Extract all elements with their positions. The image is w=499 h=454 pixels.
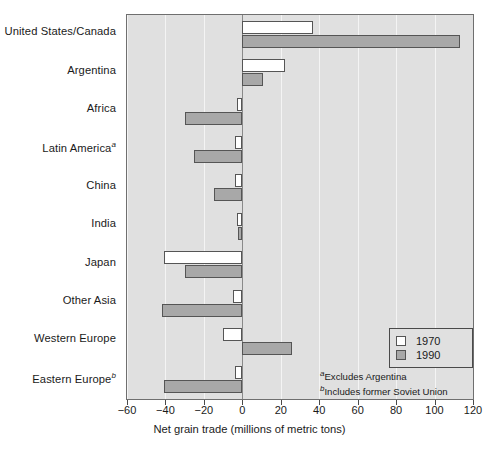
category-label-text: Japan: [85, 256, 116, 268]
x-tick-label: 60: [338, 404, 378, 416]
x-tick-label: 20: [261, 404, 301, 416]
x-tick-label: 120: [453, 404, 493, 416]
bar-1990-india: [238, 227, 242, 240]
category-label-text: Western Europe: [34, 332, 116, 344]
gridline: [358, 15, 359, 399]
category-label-text: India: [91, 217, 116, 229]
category-label-text: Other Asia: [63, 294, 116, 306]
category-label-text: China: [86, 179, 116, 191]
category-label-japan: Japan: [0, 256, 116, 268]
x-tick-label: −20: [184, 404, 224, 416]
legend-swatch-filled-square-icon: [396, 350, 406, 360]
category-label-text: Eastern Europe: [32, 373, 111, 385]
category-footnote-mark: b: [111, 371, 116, 380]
category-label-text: Latin America: [42, 142, 111, 154]
bar-1990-western-europe: [242, 342, 292, 355]
bar-1970-western-europe: [223, 328, 242, 341]
legend-item-1970: 1970: [396, 335, 466, 347]
category-label-india: India: [0, 217, 116, 229]
footnote-b-text: Includes former Soviet Union: [324, 386, 447, 397]
category-label-text: Argentina: [67, 64, 116, 76]
gridline: [473, 15, 474, 399]
bar-1970-latin-america: [235, 136, 243, 149]
bar-1990-other-asia: [162, 304, 243, 317]
gridline: [319, 15, 320, 399]
legend-label-1990: 1990: [416, 349, 440, 361]
category-label-text: United States/Canada: [5, 25, 116, 37]
footnote-a: aExcludes Argentina: [320, 368, 448, 383]
category-footnote-mark: a: [111, 140, 116, 149]
x-tick-label: 80: [376, 404, 416, 416]
bar-1990-africa: [185, 112, 243, 125]
bar-1970-united-states-canada: [242, 21, 313, 34]
x-tick-label: −40: [145, 404, 185, 416]
category-label-eastern-europe: Eastern Europeb: [0, 371, 116, 385]
chart-footnotes: aExcludes Argentina bIncludes former Sov…: [320, 368, 448, 398]
chart-legend: 1970 1990: [389, 328, 473, 368]
footnote-a-text: Excludes Argentina: [324, 371, 406, 382]
legend-label-1970: 1970: [416, 335, 440, 347]
bar-1970-africa: [237, 98, 243, 111]
gridline: [127, 15, 128, 399]
category-label-argentina: Argentina: [0, 64, 116, 76]
category-label-africa: Africa: [0, 102, 116, 114]
bar-1990-china: [214, 188, 243, 201]
bar-1970-eastern-europe: [235, 366, 243, 379]
bar-1990-eastern-europe: [164, 380, 243, 393]
bar-1970-other-asia: [233, 290, 243, 303]
gridline: [165, 15, 166, 399]
gridline: [204, 15, 205, 399]
x-axis-title: Net grain trade (millions of metric tons…: [0, 423, 499, 435]
legend-item-1990: 1990: [396, 349, 466, 361]
bar-1970-china: [235, 174, 243, 187]
bar-1990-united-states-canada: [242, 35, 459, 48]
bar-1990-japan: [185, 265, 243, 278]
bar-1970-japan: [164, 251, 243, 264]
category-label-text: Africa: [87, 102, 116, 114]
x-tick-label: 0: [222, 404, 262, 416]
x-tick-label: −60: [107, 404, 147, 416]
bar-1990-argentina: [242, 73, 263, 86]
footnote-b: bIncludes former Soviet Union: [320, 383, 448, 398]
grain-trade-bar-chart: United States/CanadaArgentinaAfricaLatin…: [0, 0, 499, 454]
category-label-china: China: [0, 179, 116, 191]
bar-1990-latin-america: [194, 150, 242, 163]
x-tick-label: 40: [299, 404, 339, 416]
category-label-western-europe: Western Europe: [0, 332, 116, 344]
legend-swatch-open-square-icon: [396, 336, 406, 346]
bar-1970-argentina: [242, 59, 284, 72]
bar-1970-india: [237, 213, 243, 226]
category-label-other-asia: Other Asia: [0, 294, 116, 306]
category-label-united-states-canada: United States/Canada: [0, 25, 116, 37]
x-tick-label: 100: [415, 404, 455, 416]
category-label-latin-america: Latin Americaa: [0, 140, 116, 154]
